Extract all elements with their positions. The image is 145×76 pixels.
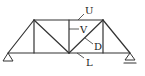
leader-l xyxy=(77,53,84,58)
left-inner-diagonal xyxy=(34,20,69,53)
label-d: D xyxy=(94,41,102,52)
left-end-diagonal xyxy=(8,20,34,53)
leader-d xyxy=(85,38,93,44)
label-l: L xyxy=(86,57,93,68)
leader-u xyxy=(78,14,84,20)
truss-diagram: U V D L xyxy=(0,0,145,76)
label-u: U xyxy=(85,5,93,16)
left-pin-support xyxy=(3,53,13,61)
right-end-diagonal xyxy=(103,20,130,53)
label-v: V xyxy=(79,24,88,35)
right-roller-support xyxy=(125,53,135,60)
